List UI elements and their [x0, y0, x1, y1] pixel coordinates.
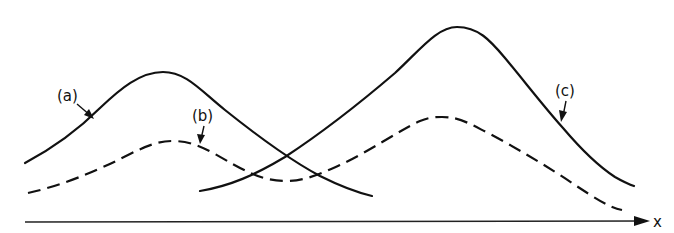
curve-c	[200, 27, 634, 191]
curve-b	[28, 117, 622, 210]
curve-c-label: (c)	[555, 82, 575, 100]
x-axis-arrowhead-icon	[634, 216, 650, 226]
curve-a-label: (a)	[57, 87, 78, 105]
curve-b-label: (b)	[192, 107, 213, 125]
x-axis-label: x	[653, 213, 662, 231]
curve-b-arrowhead-icon	[197, 134, 205, 144]
x-axis	[25, 221, 646, 222]
diagram-canvas: x (a) (b) (c)	[0, 0, 674, 233]
curve-c-arrowhead-icon	[559, 110, 567, 122]
